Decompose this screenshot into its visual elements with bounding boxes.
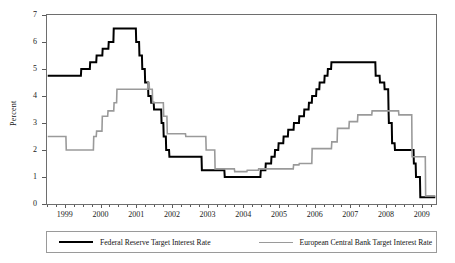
x-axis-tick-label: 2000 xyxy=(81,210,121,219)
legend-label: European Central Bank Target Interest Ra… xyxy=(300,238,433,247)
y-axis-tick-label: 6 xyxy=(19,37,37,46)
legend-line-swatch xyxy=(59,241,93,243)
series-canvas xyxy=(47,15,436,204)
x-axis-tick-label: 2001 xyxy=(116,210,156,219)
x-axis-tick-label: 2004 xyxy=(223,210,263,219)
legend-label: Federal Reserve Target Interest Rate xyxy=(100,238,211,247)
series-line-ecb xyxy=(48,83,436,196)
y-axis-tick-label: 7 xyxy=(19,10,37,19)
y-axis-tick-label: 0 xyxy=(19,199,37,208)
y-axis-title: Percent xyxy=(6,78,20,148)
y-axis-tick-label: 5 xyxy=(19,64,37,73)
plot-area xyxy=(46,14,437,205)
x-axis-tick-label: 2006 xyxy=(295,210,335,219)
x-axis-tick-label: 2009 xyxy=(402,210,442,219)
y-axis-tick-label: 4 xyxy=(19,91,37,100)
x-axis-tick-label: 2003 xyxy=(188,210,228,219)
x-axis-tick-label: 2008 xyxy=(366,210,406,219)
y-axis-tick-label: 3 xyxy=(19,118,37,127)
x-axis-tick-label: 1999 xyxy=(45,210,85,219)
legend-item-fed: Federal Reserve Target Interest Rate xyxy=(47,232,211,252)
y-axis-tick-label: 1 xyxy=(19,172,37,181)
x-axis-tick-label: 2002 xyxy=(152,210,192,219)
chart-figure: Percent 01234567 19992000200120022003200… xyxy=(0,0,455,263)
y-axis-tick-label: 2 xyxy=(19,145,37,154)
chart-legend: Federal Reserve Target Interest RateEuro… xyxy=(46,231,437,253)
x-axis-tick-label: 2005 xyxy=(259,210,299,219)
legend-line-swatch xyxy=(259,242,293,243)
x-axis-tick-label: 2007 xyxy=(330,210,370,219)
legend-item-ecb: European Central Bank Target Interest Ra… xyxy=(247,232,433,252)
